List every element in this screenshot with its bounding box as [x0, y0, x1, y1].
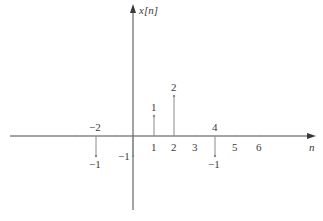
y-axis-label: x[n]: [139, 5, 158, 16]
n-axis-arrow-icon: [307, 133, 316, 139]
stem-plot: [0, 0, 323, 221]
tick-n-6: [258, 135, 260, 137]
tick-n-neg1: [116, 135, 118, 137]
tick-n-5: [234, 135, 236, 137]
marker-n-0: [132, 155, 134, 157]
annotation-value-n-1: 1: [151, 102, 157, 113]
x-tick-label-5: 5: [232, 142, 238, 153]
annotation-value-n-neg2: −1: [89, 159, 101, 170]
marker-n-1: [153, 115, 155, 117]
marker-n-neg2: [95, 155, 97, 157]
tick-n-neg3: [76, 135, 78, 137]
marker-n-4: [214, 155, 216, 157]
x-tick-label-2: 2: [171, 142, 177, 153]
tick-n-3: [194, 135, 196, 137]
annotation-value-n-2: 2: [171, 82, 177, 93]
annotation-value-n-0: −1: [118, 151, 130, 162]
x-tick-label-3: 3: [192, 142, 198, 153]
x-axis-label: n: [309, 142, 315, 153]
x-tick-label-6: 6: [256, 142, 262, 153]
annotation-value-n-4: −1: [208, 159, 220, 170]
annotation-n-4: 4: [212, 122, 218, 133]
x-tick-label-1: 1: [151, 142, 157, 153]
vertical-axis-arrow-icon: [130, 4, 136, 13]
marker-n-2: [173, 95, 175, 97]
annotation-n-neg2: −2: [89, 122, 101, 133]
